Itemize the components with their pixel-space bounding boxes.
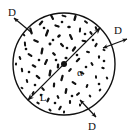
fiber-mark <box>92 39 95 41</box>
fiber-mark <box>98 55 100 59</box>
fiber-mark <box>28 71 31 73</box>
figure-container: L α D D D <box>0 0 133 134</box>
fiber-mark <box>65 57 68 60</box>
label-callout-d-top-left: D <box>8 6 16 18</box>
fiber-mark <box>49 43 52 46</box>
fiber-mark <box>71 95 74 97</box>
fiber-mark <box>61 21 64 23</box>
label-callout-d-bottom-right: D <box>88 120 96 132</box>
center-point <box>61 61 67 67</box>
fiber-mark <box>67 26 71 29</box>
fiber-mark <box>25 48 28 50</box>
fiber-mark <box>55 59 58 61</box>
fiber-mark <box>76 54 79 56</box>
fiber-mark <box>103 60 106 62</box>
fiber-mark <box>38 59 41 61</box>
label-angle-alpha: α <box>77 66 83 78</box>
fiber-mark <box>98 83 101 85</box>
fiber-mark <box>85 66 88 68</box>
fiber-mark <box>52 39 55 41</box>
fiber-mark <box>54 102 57 104</box>
label-callout-d-top-right: D <box>114 24 122 36</box>
fiber-mark <box>84 33 87 35</box>
fiber-mark <box>43 27 46 29</box>
cross-section-diagram: L α D D D <box>0 0 133 134</box>
fiber-mark <box>69 100 71 104</box>
fiber-mark <box>66 47 69 49</box>
label-diameter-L: L <box>40 91 47 103</box>
fiber-mark <box>34 84 37 86</box>
figure-background <box>0 0 133 134</box>
